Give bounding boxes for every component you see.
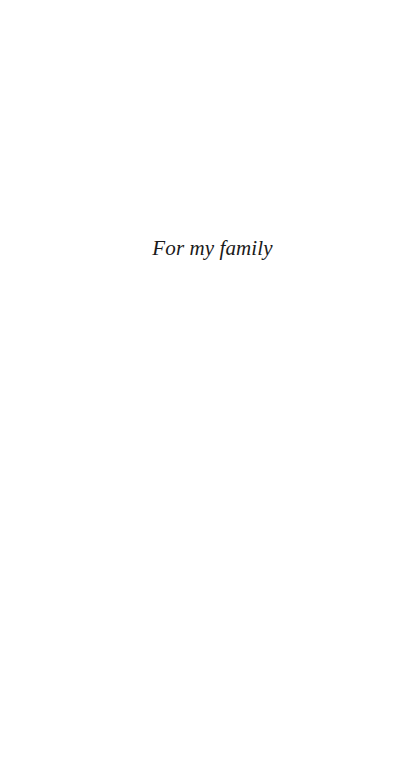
dedication-text: For my family xyxy=(0,236,419,260)
dedication-page: For my family xyxy=(0,0,419,768)
